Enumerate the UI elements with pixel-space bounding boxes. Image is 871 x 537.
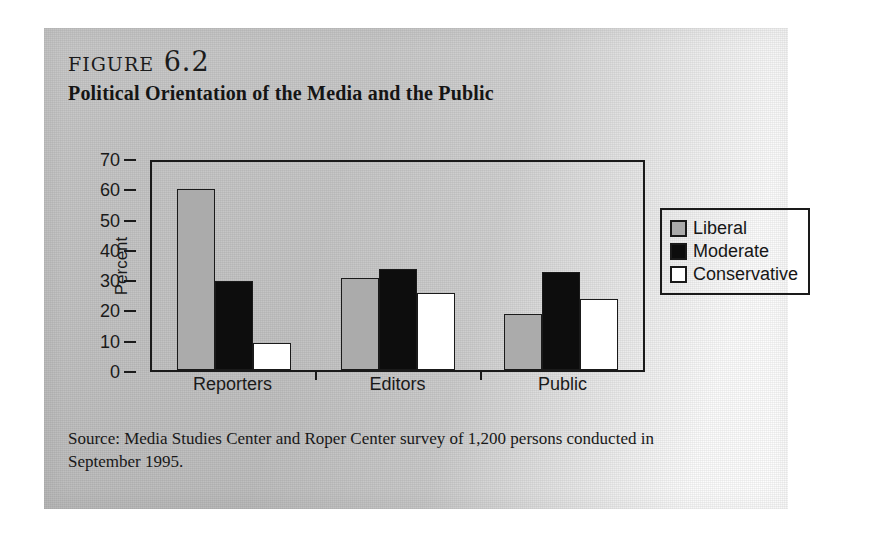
bar-group	[479, 162, 643, 370]
bar-moderate	[215, 281, 253, 370]
x-axis-label: Public	[480, 374, 645, 395]
bar-liberal	[177, 189, 215, 370]
y-axis-tick-marks	[124, 160, 136, 372]
bar-moderate	[542, 272, 580, 370]
y-axis-tick-label: 70	[100, 150, 120, 171]
scanned-page: figure 6.2 Political Orientation of the …	[0, 0, 871, 537]
y-axis-tick-mark	[124, 189, 136, 191]
y-axis-tick-label: 40	[100, 240, 120, 261]
bar-conservative	[417, 293, 455, 370]
bar-conservative	[580, 299, 618, 370]
y-axis-tick-label: 30	[100, 271, 120, 292]
bar-liberal	[341, 278, 379, 370]
y-axis-tick-labels: 706050403020100	[74, 160, 120, 372]
bar-chart: Percent 706050403020100 ReportersEditors…	[68, 160, 768, 405]
legend-label: Liberal	[693, 218, 747, 239]
x-axis-label: Editors	[315, 374, 480, 395]
y-axis-tick-label: 60	[100, 180, 120, 201]
legend-item-liberal: Liberal	[670, 217, 798, 240]
legend-swatch-liberal	[670, 220, 687, 237]
bar-group	[316, 162, 480, 370]
legend-label: Moderate	[693, 241, 769, 262]
figure-number-label: figure 6.2	[68, 46, 210, 77]
bar-conservative	[253, 343, 291, 370]
y-axis-tick-mark	[124, 310, 136, 312]
y-axis-tick-mark	[124, 220, 136, 222]
legend-label: Conservative	[693, 264, 798, 285]
bar-moderate	[379, 269, 417, 370]
y-axis-tick-mark	[124, 341, 136, 343]
x-axis-label: Reporters	[150, 374, 315, 395]
y-axis-tick-mark	[124, 280, 136, 282]
y-axis-tick-label: 0	[110, 362, 120, 383]
bar-groups	[152, 162, 643, 370]
figure-title: Political Orientation of the Media and t…	[68, 82, 494, 105]
y-axis-tick-label: 20	[100, 301, 120, 322]
legend-swatch-moderate	[670, 243, 687, 260]
legend-swatch-conservative	[670, 266, 687, 283]
legend-item-conservative: Conservative	[670, 263, 798, 286]
y-axis-tick-mark	[124, 371, 136, 373]
bar-group	[152, 162, 316, 370]
plot-frame	[150, 160, 645, 372]
bar-liberal	[504, 314, 542, 370]
y-axis-tick-mark	[124, 159, 136, 161]
chart-legend: LiberalModerateConservative	[660, 208, 810, 295]
x-axis-labels: ReportersEditorsPublic	[150, 374, 645, 395]
y-axis-tick-label: 10	[100, 331, 120, 352]
legend-item-moderate: Moderate	[670, 240, 798, 263]
y-axis-tick-mark	[124, 250, 136, 252]
y-axis-tick-label: 50	[100, 210, 120, 231]
source-note: Source: Media Studies Center and Roper C…	[68, 428, 728, 473]
